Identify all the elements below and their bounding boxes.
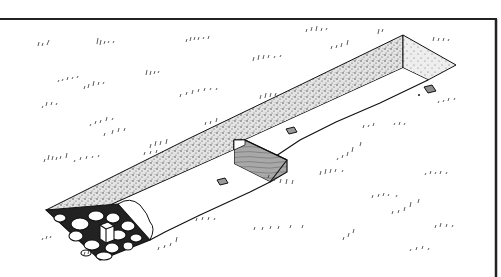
illustration-frame <box>0 0 501 277</box>
trench-illustration <box>0 0 501 277</box>
marker-far <box>424 85 436 93</box>
